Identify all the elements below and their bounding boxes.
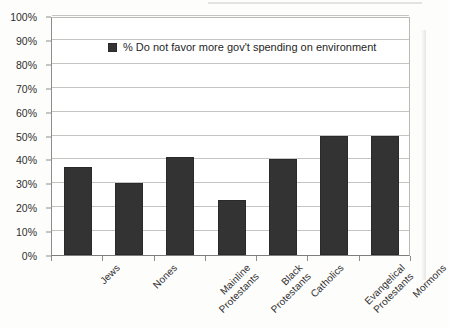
y-tick-label-60: 60%	[16, 107, 37, 118]
bar-evangelical-protestants	[320, 136, 348, 256]
y-tick-label-80: 80%	[16, 60, 37, 71]
bar-nones	[115, 183, 143, 255]
y-tick-label-100: 100%	[10, 12, 37, 23]
x-category-label-mormons: Mormons	[411, 262, 449, 300]
bar-mormons	[371, 136, 399, 256]
y-tick-label-40: 40%	[16, 155, 37, 166]
x-category-label-mainline-protestants: Mainline Protestants	[208, 262, 261, 315]
x-tick-mark-7	[410, 256, 411, 261]
x-axis-category-labels: JewsNonesMainline ProtestantsBlack Prote…	[51, 258, 410, 324]
scan-artifact-top-line	[208, 2, 422, 4]
x-category-label-evangelical-protestants: Evangelical Protestants	[362, 262, 415, 315]
chart-legend: % Do not favor more gov't spending on en…	[108, 42, 376, 53]
bar-catholics	[269, 159, 297, 255]
bar-mainline-protestants	[166, 157, 194, 255]
x-category-label-black-protestants: Black Protestants	[260, 262, 313, 315]
y-tick-label-30: 30%	[16, 179, 37, 190]
x-category-label-catholics: Catholics	[308, 262, 346, 300]
y-tick-label-20: 20%	[16, 203, 37, 214]
y-tick-label-90: 90%	[16, 36, 37, 47]
y-tick-label-70: 70%	[16, 83, 37, 94]
scan-artifact-bottom-mask	[0, 318, 426, 328]
bar-black-protestants	[218, 200, 246, 255]
y-tick-label-10: 10%	[16, 227, 37, 238]
y-tick-label-50: 50%	[16, 131, 37, 142]
x-category-label-jews: Jews	[97, 262, 122, 287]
y-tick-label-0: 0%	[22, 251, 37, 262]
bar-jews	[64, 167, 92, 255]
bars-layer	[52, 18, 409, 255]
scan-artifact-right-edge	[421, 30, 426, 280]
legend-square-swatch-icon	[108, 43, 117, 52]
legend-series-label: % Do not favor more gov't spending on en…	[123, 42, 376, 53]
plot-area: % Do not favor more gov't spending on en…	[51, 17, 410, 256]
y-axis: 0%10%20%30%40%50%60%70%80%90%100%	[0, 17, 44, 256]
gridline-100	[52, 15, 409, 16]
x-category-label-nones: Nones	[151, 262, 180, 291]
